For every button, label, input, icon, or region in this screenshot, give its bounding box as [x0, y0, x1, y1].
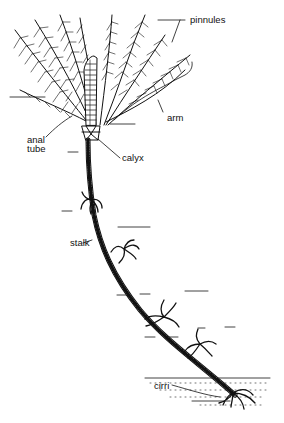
leader-lines	[46, 20, 220, 397]
anal-tube	[84, 56, 97, 125]
label-arm: arm	[167, 113, 183, 122]
label-anal-tube-line2: tube	[27, 144, 46, 153]
pinnules	[14, 22, 189, 117]
label-stalk: stalk	[70, 238, 90, 247]
crinoid-diagram: pinnules arm anal tube calyx stalk cirri	[0, 0, 284, 423]
calyx	[82, 126, 100, 140]
water-level-lines	[10, 97, 270, 401]
arms	[15, 15, 190, 125]
stalk	[88, 140, 235, 395]
label-pinnules: pinnules	[190, 15, 225, 24]
crinoid-illustration	[0, 0, 284, 423]
label-calyx: calyx	[122, 153, 144, 162]
cirri-whorls	[81, 192, 255, 409]
label-cirri: cirri	[154, 381, 169, 390]
